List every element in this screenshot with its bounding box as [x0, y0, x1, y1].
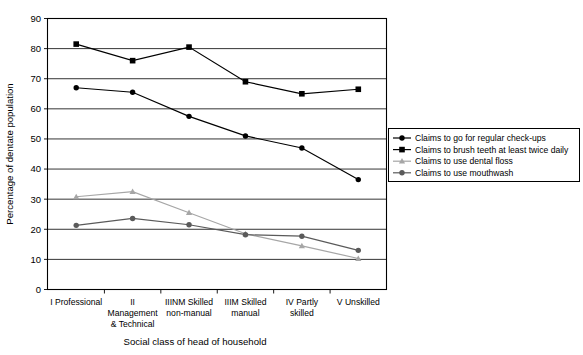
x-axis-tickmarks [104, 290, 330, 294]
y-axis-title: Percentage of dentate population [4, 83, 15, 224]
data-point-marker [399, 147, 405, 153]
data-point-marker [399, 135, 404, 140]
series-group [73, 41, 361, 261]
x-axis-category-labels: I ProfessionalIIManagement& TechnicalIII… [50, 297, 380, 329]
data-point-marker [399, 170, 404, 175]
x-category-label: IIIM Skilled [224, 297, 266, 307]
x-category-label: & Technical [111, 319, 155, 329]
x-category-label: V Unskilled [337, 297, 380, 307]
series-line [76, 44, 358, 94]
x-category-label: IV Partly [286, 297, 319, 307]
data-point-marker [356, 177, 361, 182]
y-axis-gridlines [44, 19, 387, 290]
y-tick-label: 70 [30, 73, 41, 84]
y-tick-label: 30 [30, 194, 41, 205]
legend-label: Claims to use mouthwash [415, 168, 514, 178]
data-point-marker [243, 79, 249, 85]
data-point-marker [130, 216, 135, 221]
plot-area-border [48, 19, 387, 290]
y-axis-tick-labels: 0102030405060708090 [30, 13, 41, 295]
legend-label: Claims to go for regular check-ups [415, 133, 546, 143]
x-category-label: IIINM Skilled [165, 297, 213, 307]
chart-container: 0102030405060708090 I ProfessionalIIMana… [0, 0, 583, 355]
y-tick-label: 20 [30, 224, 41, 235]
y-tick-label: 40 [30, 163, 41, 174]
data-point-marker [130, 90, 135, 95]
data-point-marker [243, 232, 248, 237]
data-point-marker [355, 86, 361, 92]
data-point-marker [299, 91, 305, 97]
y-tick-label: 10 [30, 254, 41, 265]
data-point-marker [186, 44, 192, 50]
y-tick-label: 80 [30, 43, 41, 54]
series-4 [74, 216, 361, 253]
x-axis-title: Social class of head of household [124, 336, 267, 347]
series-1 [74, 85, 361, 182]
y-tick-label: 0 [36, 284, 41, 295]
series-line [76, 88, 358, 180]
data-point-marker [74, 223, 79, 228]
data-point-marker [73, 41, 79, 47]
data-point-marker [186, 114, 191, 119]
x-category-label: II [130, 297, 135, 307]
data-point-marker [299, 145, 304, 150]
series-line [76, 192, 358, 259]
x-category-label: manual [231, 308, 259, 318]
data-point-marker [356, 248, 361, 253]
x-category-label: non-manual [166, 308, 211, 318]
y-tick-label: 90 [30, 13, 41, 24]
data-point-marker [299, 234, 304, 239]
line-chart: 0102030405060708090 I ProfessionalIIMana… [0, 0, 583, 355]
data-point-marker [74, 85, 79, 90]
legend-label: Claims to brush teeth at least twice dai… [415, 145, 569, 155]
y-tick-label: 60 [30, 103, 41, 114]
y-tick-label: 50 [30, 133, 41, 144]
data-point-marker [130, 58, 136, 64]
series-2 [73, 41, 361, 96]
legend-label: Claims to use dental floss [415, 156, 513, 166]
data-point-marker [186, 222, 191, 227]
x-category-label: I Professional [50, 297, 102, 307]
x-category-label: skilled [290, 308, 314, 318]
x-category-label: Management [108, 308, 159, 318]
data-point-marker [243, 133, 248, 138]
